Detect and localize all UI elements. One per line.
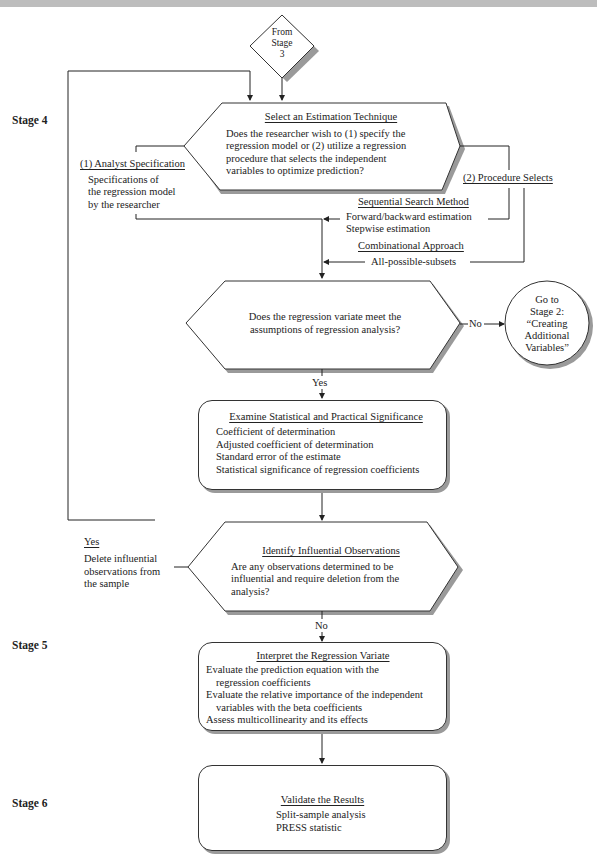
influential-yes-label: Yes (84, 536, 99, 549)
start-line: 3 (262, 49, 302, 60)
analyst-specification-title: (1) Analyst Specification (80, 158, 185, 171)
validate-title: Validate the Results (199, 794, 446, 805)
select-technique-line: procedure that selects the independent (226, 153, 436, 166)
influential-line: analysis? (231, 586, 431, 599)
select-technique-node: Select an Estimation Technique Does the … (226, 111, 436, 178)
influential-line: influential and require deletion from th… (231, 573, 431, 586)
interpret-line: Assess multicollinearity and its effects (206, 714, 440, 727)
significance-title: Examine Statistical and Practical Signif… (216, 411, 436, 422)
goto-line: “Creating (517, 318, 577, 330)
interpret-line: Evaluate the prediction equation with th… (206, 664, 440, 677)
significance-line: Coefficient of determination (216, 426, 436, 439)
validate-box: Validate the Results Split-sample analys… (198, 765, 447, 851)
interpret-line: Evaluate the relative importance of the … (206, 689, 440, 702)
start-from-stage3: From Stage 3 (262, 27, 302, 60)
influential-yes-node: Delete influential observations from the… (84, 553, 160, 591)
procedure-selects-title: (2) Procedure Selects (463, 172, 553, 185)
significance-box: Examine Statistical and Practical Signif… (198, 400, 447, 490)
goto-line: Go to (517, 294, 577, 306)
combinational-line: All-possible-subsets (371, 256, 456, 269)
analyst-spec-line: Specifications of (88, 174, 185, 187)
select-technique-title: Select an Estimation Technique (226, 111, 436, 124)
assumptions-line: Does the regression variate meet the (230, 311, 420, 324)
analyst-specification-node: (1) Analyst Specification Specifications… (80, 158, 185, 211)
assumptions-no-label: No (469, 318, 482, 331)
assumptions-line: assumptions of regression analysis? (230, 324, 420, 337)
sequential-search-line: Forward/backward estimation (346, 211, 472, 224)
interpret-title: Interpret the Regression Variate (206, 650, 440, 661)
influential-yes-line: observations from (84, 566, 160, 579)
interpret-line: variables with the beta coefficients (206, 702, 440, 715)
sequential-search-title: Sequential Search Method (346, 196, 472, 209)
stage-5-label: Stage 5 (12, 639, 47, 651)
influential-node: Identify Influential Observations Are an… (231, 545, 431, 598)
select-technique-line: variables to optimize prediction? (226, 165, 436, 178)
influential-line: Are any observations determined to be (231, 561, 431, 574)
influential-no-label: No (315, 620, 328, 633)
influential-title: Identify Influential Observations (231, 545, 431, 558)
goto-line: Variables” (517, 342, 577, 354)
influential-yes-line: Delete influential (84, 553, 160, 566)
validate-line: PRESS statistic (276, 822, 446, 835)
combinational-approach-title: Combinational Approach (358, 240, 464, 253)
significance-line: Adjusted coefficient of determination (216, 439, 436, 452)
significance-line: Statistical significance of regression c… (216, 464, 436, 477)
goto-line: Stage 2: (517, 306, 577, 318)
select-technique-line: Does the researcher wish to (1) specify … (226, 128, 436, 141)
stage-6-label: Stage 6 (12, 797, 47, 809)
goto-line: Additional (517, 330, 577, 342)
analyst-spec-line: the regression model (88, 186, 185, 199)
sequential-search-line: Stepwise estimation (346, 223, 472, 236)
stage-4-label: Stage 4 (12, 114, 47, 126)
analyst-spec-line: by the researcher (88, 199, 185, 212)
interpret-box: Interpret the Regression Variate Evaluat… (198, 642, 447, 731)
sequential-search-node: Sequential Search Method Forward/backwar… (346, 196, 472, 236)
assumptions-node: Does the regression variate meet the ass… (230, 311, 420, 336)
select-technique-line: regression model or (2) utilize a regres… (226, 140, 436, 153)
assumptions-yes-label: Yes (312, 377, 327, 390)
goto-stage2-node: Go to Stage 2: “Creating Additional Vari… (517, 294, 577, 354)
start-line: Stage (262, 38, 302, 49)
validate-line: Split-sample analysis (276, 809, 446, 822)
significance-line: Standard error of the estimate (216, 451, 436, 464)
interpret-line: regression coefficients (206, 677, 440, 690)
influential-yes-line: the sample (84, 578, 160, 591)
start-line: From (262, 27, 302, 38)
